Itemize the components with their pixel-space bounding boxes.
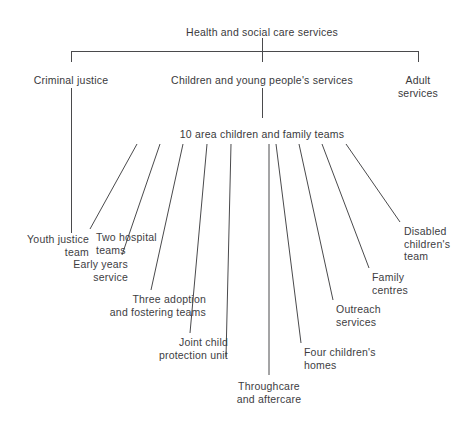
early-years-service: Early years service: [73, 258, 128, 283]
outreach-services: Outreach services: [336, 303, 381, 328]
fan-line-throughcare-and-aftercare: [226, 144, 231, 357]
fan-line-four-childrens-homes: [276, 144, 301, 343]
four-childrens-homes: Four children's homes: [304, 346, 376, 371]
two-hospital-teams: Two hospital teams: [96, 231, 157, 256]
three-adoption-and-fostering-teams: Three adoption and fostering teams: [110, 293, 206, 318]
family-centres: Family centres: [372, 271, 408, 296]
fan-line-two-hospital-teams: [90, 144, 137, 229]
division-criminal-justice: Criminal justice: [34, 74, 109, 87]
org-chart-diagram: Health and social care services Criminal…: [0, 0, 470, 422]
area-children-and-family-teams: 10 area children and family teams: [180, 128, 345, 141]
fan-line-family-centres: [322, 144, 369, 268]
disabled-childrens-team: Disabled children's team: [404, 225, 450, 263]
fan-line-three-adoption-and-fostering: [151, 144, 183, 290]
fan-connectors: [90, 144, 400, 375]
division-adult-services: Adult services: [392, 74, 444, 99]
page-title: Health and social care services: [186, 26, 338, 39]
fan-line-disabled-childrens-team: [346, 144, 400, 222]
joint-child-protection-unit: Joint child protection unit: [159, 336, 228, 361]
youth-justice-team: Youth justice team: [27, 233, 89, 258]
division-children-and-young-peoples-services: Children and young people's services: [171, 74, 353, 87]
fan-line-outreach-services: [299, 144, 333, 300]
throughcare-and-aftercare: Throughcare and aftercare: [237, 380, 302, 405]
connector-layer: [0, 0, 470, 422]
